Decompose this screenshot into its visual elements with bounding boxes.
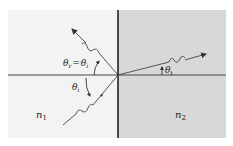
reflection-refraction-diagram: θr=θi θi θt n1 n2 — [0, 0, 233, 146]
medium-1-region — [8, 10, 118, 138]
reflected-angle-label: θr=θi — [63, 58, 88, 69]
